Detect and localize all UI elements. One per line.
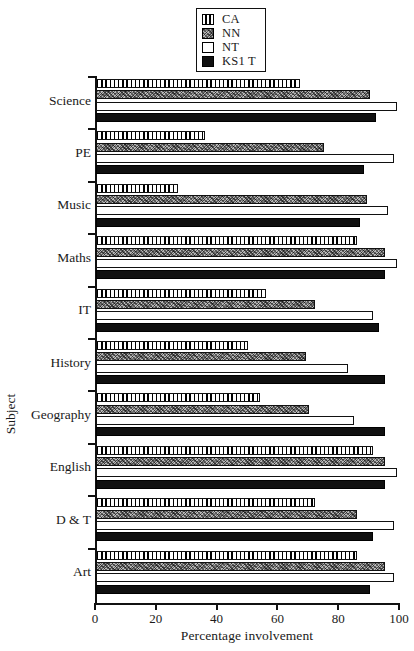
bar-nn-maths xyxy=(96,248,385,257)
bar-nt-maths xyxy=(96,259,397,268)
legend-swatch-ks1t-icon xyxy=(202,56,214,67)
bar-ca-maths xyxy=(96,236,357,245)
legend-swatch-nt-icon xyxy=(202,42,214,53)
x-tick-label-80: 80 xyxy=(318,611,358,627)
y-tick-art xyxy=(88,548,96,550)
chart-legend: CA NN NT KS1 T xyxy=(196,8,266,72)
bar-nn-english xyxy=(96,457,385,466)
bar-ca-science xyxy=(96,79,300,88)
bar-nn-it xyxy=(96,300,315,309)
y-tick-label-wrap: English xyxy=(0,460,95,476)
y-tick-label-wrap: PE xyxy=(0,146,95,162)
y-tick-label-maths: Maths xyxy=(3,251,95,265)
bar-nt-english xyxy=(96,468,397,477)
legend-item-ca: CA xyxy=(202,12,256,26)
bar-ca-music xyxy=(96,184,178,193)
y-tick-label-wrap: Music xyxy=(0,198,95,214)
bar-ca-geography xyxy=(96,393,260,402)
bar-nt-music xyxy=(96,206,388,215)
bar-nt-d-t xyxy=(96,521,394,530)
bar-ca-it xyxy=(96,289,266,298)
bar-ks1t-d-t xyxy=(96,532,373,541)
x-axis-title-text: Percentage involvement xyxy=(181,628,313,643)
y-tick-label-english: English xyxy=(3,460,95,474)
bar-nt-pe xyxy=(96,154,394,163)
bar-ks1t-history xyxy=(96,375,385,384)
legend-item-nn: NN xyxy=(202,26,256,40)
y-tick-music xyxy=(88,181,96,183)
x-tick-20 xyxy=(155,603,157,610)
bar-nt-science xyxy=(96,102,397,111)
y-tick-d-t xyxy=(88,495,96,497)
bar-ca-history xyxy=(96,341,248,350)
y-tick-label-wrap: Art xyxy=(0,565,95,581)
y-tick-english xyxy=(88,443,96,445)
y-tick-label-d-t: D & T xyxy=(3,513,95,527)
y-tick-label-wrap: Science xyxy=(0,94,95,110)
x-axis-line xyxy=(94,603,400,605)
y-tick-label-art: Art xyxy=(3,565,95,579)
y-tick-label-pe: PE xyxy=(3,146,95,160)
bar-ks1t-maths xyxy=(96,270,385,279)
y-tick-pe xyxy=(88,128,96,130)
x-tick-label-100: 100 xyxy=(379,611,414,627)
bar-nn-geography xyxy=(96,405,309,414)
x-tick-label-0: 0 xyxy=(75,611,115,627)
legend-label-ks1t: KS1 T xyxy=(222,55,256,67)
bar-nn-science xyxy=(96,90,370,99)
y-tick-label-it: IT xyxy=(3,303,95,317)
bar-nn-history xyxy=(96,352,306,361)
bar-nn-pe xyxy=(96,143,324,152)
legend-item-nt: NT xyxy=(202,40,256,54)
y-tick-label-wrap: History xyxy=(0,356,95,372)
bar-nn-art xyxy=(96,562,385,571)
legend-label-ca: CA xyxy=(222,13,240,25)
bar-chart-figure: CA NN NT KS1 T SciencePEMusicMathsITHist… xyxy=(0,0,414,651)
y-tick-label-history: History xyxy=(3,356,95,370)
x-axis-title: Percentage involvement xyxy=(0,628,414,644)
bar-nt-it xyxy=(96,311,373,320)
x-tick-60 xyxy=(276,603,278,610)
x-tick-40 xyxy=(216,603,218,610)
legend-swatch-nn-icon xyxy=(202,28,214,39)
bar-ks1t-it xyxy=(96,323,379,332)
bar-ks1t-pe xyxy=(96,165,364,174)
bar-ks1t-art xyxy=(96,585,370,594)
y-tick-label-wrap: D & T xyxy=(0,513,95,529)
bar-ks1t-science xyxy=(96,113,376,122)
y-tick-label-music: Music xyxy=(3,198,95,212)
bar-ks1t-english xyxy=(96,480,385,489)
y-tick-label-science: Science xyxy=(3,94,95,108)
y-tick-maths xyxy=(88,233,96,235)
x-tick-80 xyxy=(337,603,339,610)
bar-ca-d-t xyxy=(96,498,315,507)
y-axis-title: Subject xyxy=(3,379,19,449)
bar-ks1t-music xyxy=(96,218,360,227)
bar-ca-pe xyxy=(96,131,205,140)
bar-nt-art xyxy=(96,573,394,582)
legend-label-nn: NN xyxy=(222,27,240,39)
bar-nt-history xyxy=(96,364,348,373)
y-tick-science xyxy=(88,76,96,78)
bar-nn-d-t xyxy=(96,510,357,519)
legend-swatch-ca-icon xyxy=(202,14,214,25)
x-tick-100 xyxy=(398,603,400,610)
x-tick-label-60: 60 xyxy=(257,611,297,627)
y-tick-history xyxy=(88,338,96,340)
bar-nt-geography xyxy=(96,416,354,425)
bar-ks1t-geography xyxy=(96,427,385,436)
legend-item-ks1t: KS1 T xyxy=(202,54,256,68)
y-tick-label-wrap: Maths xyxy=(0,251,95,267)
bar-ca-art xyxy=(96,551,357,560)
bar-nn-music xyxy=(96,195,367,204)
y-tick-it xyxy=(88,286,96,288)
x-tick-0 xyxy=(94,603,96,610)
y-tick-label-wrap: IT xyxy=(0,303,95,319)
y-tick-geography xyxy=(88,390,96,392)
x-tick-label-40: 40 xyxy=(197,611,237,627)
x-tick-label-20: 20 xyxy=(136,611,176,627)
bar-ca-english xyxy=(96,446,373,455)
legend-label-nt: NT xyxy=(222,41,239,53)
